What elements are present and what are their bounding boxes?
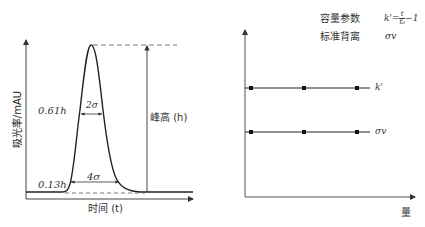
legend-sigma-symbol: σv xyxy=(385,32,396,41)
legend-sigma-name: 标准背离 xyxy=(320,32,360,42)
series-k-label: k' xyxy=(375,83,383,92)
legend-capacity-formula: k'=tt₀−1 xyxy=(384,11,418,26)
formula-lhs: k'= xyxy=(384,13,399,23)
label-4sigma: 4σ xyxy=(87,172,100,182)
left-x-axis-label: 时间 (t) xyxy=(88,204,123,214)
right-chart xyxy=(245,30,415,197)
label-peak-height: 峰高 (h) xyxy=(150,113,187,123)
label-2sigma: 2σ xyxy=(86,101,98,110)
series-sigma-marker xyxy=(355,130,359,134)
label-061h: 0.61h xyxy=(38,106,67,116)
left-y-axis-label: 吸光率/mAU xyxy=(9,75,24,165)
legend-capacity-name: 容量参数 xyxy=(320,14,360,24)
series-sigma-marker xyxy=(249,130,253,134)
formula-rhs: −1 xyxy=(405,13,418,23)
series-k-marker xyxy=(249,86,253,90)
series-sigma-label: σv xyxy=(375,127,386,136)
label-013h: 0.13h xyxy=(38,180,67,190)
series-sigma-marker xyxy=(302,130,306,134)
right-x-axis-label: 量 xyxy=(401,208,411,218)
series-k-marker xyxy=(302,86,306,90)
series-k-marker xyxy=(355,86,359,90)
